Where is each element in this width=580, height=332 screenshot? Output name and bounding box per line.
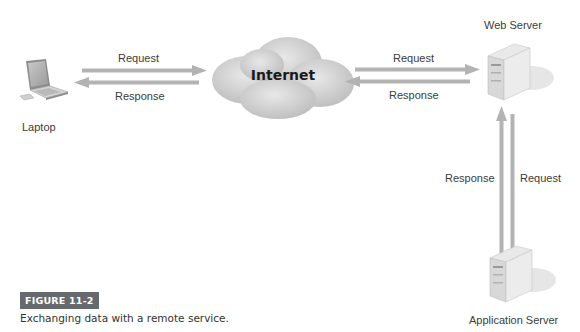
server-icon	[488, 240, 558, 306]
request-arrow-internet-to-webserver	[355, 64, 480, 76]
response-label-3: Response	[445, 172, 495, 184]
web-server-label: Web Server	[484, 19, 542, 31]
laptop-icon	[18, 58, 70, 106]
response-label-1: Response	[115, 90, 165, 102]
request-label-1: Request	[118, 52, 159, 64]
figure-badge: FIGURE 11-2	[20, 292, 99, 309]
response-arrow-webserver-to-internet	[345, 76, 470, 88]
request-label-3: Request	[520, 172, 561, 184]
server-icon	[486, 38, 556, 104]
request-arrow-laptop-to-internet	[82, 65, 207, 77]
figure-caption: Exchanging data with a remote service.	[20, 312, 229, 324]
request-label-2: Request	[393, 52, 434, 64]
laptop-label: Laptop	[22, 121, 56, 133]
internet-label: Internet	[243, 67, 323, 83]
response-arrow-internet-to-laptop	[74, 77, 199, 89]
app-server-label: Application Server	[469, 314, 558, 326]
response-label-2: Response	[389, 89, 439, 101]
